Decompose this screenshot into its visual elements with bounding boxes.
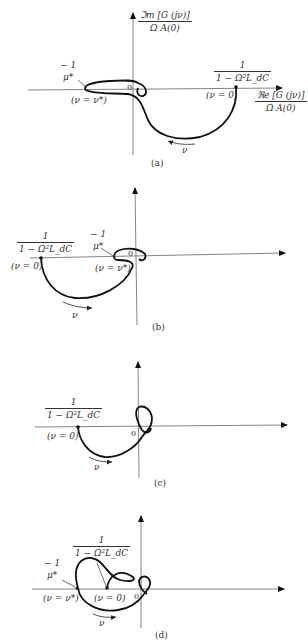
mu-star-num: − 1 — [58, 61, 78, 71]
nu-zero-label: (ν = 0) — [11, 262, 42, 271]
imag-axis-label-num: ℑm [G (jν)] — [138, 11, 192, 21]
nu-direction-label: ν — [72, 311, 77, 320]
panel-c — [35, 362, 287, 478]
origin-label: 0 — [134, 592, 139, 601]
nu-zero-point — [234, 85, 238, 89]
mu-pointer — [62, 580, 75, 587]
nu-direction-label: ν — [94, 463, 99, 472]
panel-caption-b: (b) — [152, 322, 165, 332]
gain-label: 1 1 − Ω²L_dC — [214, 61, 271, 83]
gain-den: 1 − Ω²L_dC — [17, 242, 74, 254]
mu-star-den: μ* — [58, 71, 78, 82]
mu-star-num: − 1 — [88, 230, 108, 240]
panel-caption-a: (a) — [151, 158, 163, 168]
real-axis — [28, 88, 282, 90]
nu-direction-arrow — [168, 141, 195, 144]
nu-zero-label: (ν = 0) — [94, 594, 125, 603]
imag-axis-label: ℑm [G (jν)] Ω A(0) — [138, 11, 192, 33]
gain-label: 1 1 − Ω²L_dC — [73, 536, 130, 558]
nu-zero-label: (ν = 0) — [206, 91, 237, 100]
panel-caption-c: (c) — [154, 478, 166, 488]
real-axis — [35, 425, 287, 427]
nu-star-label: (ν = ν*) — [95, 264, 131, 273]
gain-num: 1 — [214, 61, 271, 71]
mu-star-den: μ* — [42, 569, 62, 580]
nu-star-label: (ν = ν*) — [71, 96, 107, 105]
nu-star-point — [76, 587, 79, 590]
gain-label: 1 1 − Ω²L_dC — [17, 232, 74, 254]
real-axis-label-num: ℜe [G (jν)] — [255, 91, 307, 101]
origin-label: 0 — [128, 249, 133, 258]
mu-star-label: − 1 μ* — [42, 559, 62, 580]
real-axis-label: ℜe [G (jν)] Ω A(0) — [255, 91, 307, 113]
mu-pointer — [78, 80, 87, 88]
gain-den: 1 − Ω²L_dC — [45, 408, 102, 420]
gain-den: 1 − Ω²L_dC — [73, 546, 130, 558]
origin-label: 0 — [127, 83, 132, 92]
nu-zero-label: (ν = 0) — [47, 432, 78, 441]
nu-direction-arrow — [63, 302, 92, 308]
real-axis-label-den: Ω A(0) — [255, 101, 307, 113]
panel-d — [32, 516, 284, 628]
gain-label: 1 1 − Ω²L_dC — [45, 398, 102, 420]
panel-a — [28, 13, 282, 155]
nu-zero-point — [105, 586, 109, 590]
mu-star-num: − 1 — [42, 559, 62, 569]
gain-num: 1 — [17, 232, 74, 242]
nu-zero-point — [39, 256, 43, 260]
nu-direction-label: ν — [182, 146, 187, 155]
nu-direction-label: ν — [99, 619, 104, 628]
mu-star-label: − 1 μ* — [58, 61, 78, 82]
panel-b — [30, 188, 285, 325]
nu-star-label: (ν = ν*) — [43, 594, 79, 603]
mu-star-den: μ* — [88, 240, 108, 251]
nu-zero-point — [76, 425, 80, 429]
origin-label: 0 — [131, 429, 136, 438]
gain-num: 1 — [45, 398, 102, 408]
imag-axis-label-den: Ω A(0) — [138, 21, 192, 33]
nu-direction-arrow — [93, 614, 116, 617]
gain-den: 1 − Ω²L_dC — [214, 71, 271, 83]
imag-axis — [135, 188, 137, 325]
panel-caption-d: (d) — [155, 630, 168, 640]
mu-star-label: − 1 μ* — [88, 230, 108, 251]
gain-num: 1 — [73, 536, 130, 546]
